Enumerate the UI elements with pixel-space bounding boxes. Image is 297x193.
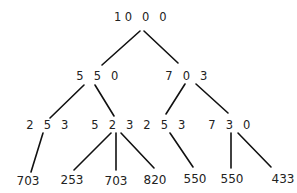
tree-svg: 10 0 05 5 07 0 32 5 35 2 32 5 37 3 07032… <box>0 0 297 193</box>
leaf-node-label: 703 <box>105 174 128 188</box>
edge-n5-n11 <box>170 133 193 167</box>
tree-node-label: 5 5 0 <box>76 69 121 83</box>
leaf-node-label: 703 <box>17 174 40 188</box>
leaf-node-label: 550 <box>221 172 244 186</box>
edge-n2-n5 <box>166 84 185 114</box>
leaf-node-label: 253 <box>61 173 84 187</box>
leaf-node-label: 433 <box>272 172 295 186</box>
edge-n3-n7 <box>31 133 43 172</box>
leaf-node-label: 550 <box>184 172 207 186</box>
edge-n0-n2 <box>144 31 178 63</box>
tree-node-label: 2 5 3 <box>26 118 71 132</box>
edge-n4-n8 <box>74 133 111 170</box>
edge-n2-n6 <box>196 84 228 113</box>
tree-node-label: 7 3 0 <box>208 118 253 132</box>
tree-node-label: 10 0 0 <box>114 10 170 24</box>
edge-n4-n10 <box>121 133 154 168</box>
edge-n1-n4 <box>95 85 114 116</box>
tree-node-label: 5 2 3 <box>91 118 136 132</box>
leaf-node-label: 820 <box>144 173 167 187</box>
edge-n1-n3 <box>50 85 84 118</box>
edge-n0-n1 <box>102 31 140 65</box>
edge-n6-n13 <box>238 133 271 167</box>
tree-node-label: 2 5 3 <box>143 118 188 132</box>
tree-diagram: 10 0 05 5 07 0 32 5 35 2 32 5 37 3 07032… <box>0 0 297 193</box>
tree-node-label: 7 0 3 <box>165 69 210 83</box>
